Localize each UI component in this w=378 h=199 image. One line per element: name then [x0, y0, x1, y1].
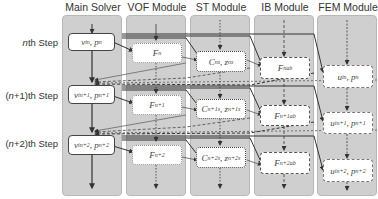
node-fem-step-n-plus-2: uin+2, pn+2 [323, 159, 373, 182]
node-main-solver-step-n-plus-2: vin+2, pn+2 [68, 135, 115, 155]
node-fem-step-n: uin, pn [323, 65, 373, 88]
node-main-solver-step-n-plus-1: vin+1, pn+1 [68, 85, 115, 104]
node-main-solver-step-n: vin, pn [68, 33, 115, 51]
connection-arrows [0, 0, 378, 199]
node-ib-step-n-plus-2: Fn+2ab [260, 152, 310, 174]
node-ib-step-n-plus-1: Fn+1ab [260, 105, 310, 126]
node-st-step-n-plus-2: Cn+2s, zn+2s [196, 147, 246, 168]
node-vof-step-n-plus-1: Fn+1 [132, 95, 182, 115]
node-st-step-n-plus-1: Cn+1s, zn+1s [196, 99, 246, 119]
node-vof-step-n: Fn [132, 43, 182, 63]
node-st-step-n: Cns, zns [196, 51, 246, 72]
node-vof-step-n-plus-2: Fn+2 [132, 145, 182, 165]
node-fem-step-n-plus-1: uin+1, pn+1 [323, 112, 373, 134]
node-ib-step-n: Fnab [260, 57, 310, 79]
